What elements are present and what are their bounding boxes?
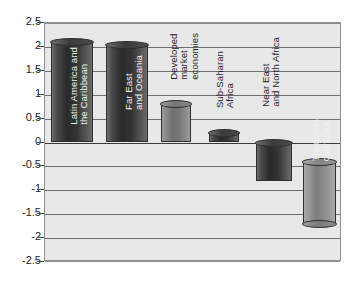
gridline--0_5 xyxy=(45,166,340,167)
series-label-transition-countries: Transition countries xyxy=(311,119,332,161)
y-tick-mark xyxy=(37,118,44,119)
bar-top-cap xyxy=(105,41,149,49)
bar-top-cap xyxy=(208,129,240,137)
y-tick-mark xyxy=(37,165,44,166)
y-tick-mark xyxy=(37,22,44,23)
y-tick-mark xyxy=(37,261,44,262)
y-tick-mark xyxy=(37,237,44,238)
y-tick-mark xyxy=(37,142,44,143)
series-label-latin-america-and-the-caribbean: Latin America and the Caribbean xyxy=(69,47,90,125)
series-label-far-east-and-oceania: Far East and Oceania xyxy=(124,55,145,110)
y-tick-mark xyxy=(37,189,44,190)
y-tick-mark xyxy=(37,70,44,71)
bar-transition-countries xyxy=(303,162,336,224)
series-label-near-east-and-north-africa: Near East and North Africa xyxy=(261,37,282,107)
gridline--1_5 xyxy=(45,214,340,215)
y-tick-mark xyxy=(37,46,44,47)
gridline--2 xyxy=(45,238,340,239)
bar-developed-market-economies xyxy=(161,104,191,142)
bar-sub-saharan-africa xyxy=(209,133,239,143)
plot-area: Latin America and the CaribbeanFar East … xyxy=(44,22,341,261)
gridline--2_5 xyxy=(45,261,340,262)
gridline-0 xyxy=(45,143,340,144)
bar-body xyxy=(161,104,191,142)
bar-bottom-cap xyxy=(302,220,337,228)
gridline--1 xyxy=(45,190,340,191)
bar-near-east-and-north-africa xyxy=(256,143,292,181)
bar-top-cap xyxy=(255,139,293,147)
y-tick-mark xyxy=(37,94,44,95)
bar-body xyxy=(303,162,336,224)
bar-body xyxy=(256,143,292,181)
series-label-sub-saharan-africa: Sub-Saharan Africa xyxy=(215,51,236,108)
gridline-2_5 xyxy=(45,23,340,24)
y-tick-mark xyxy=(37,213,44,214)
bar-chart: 2.521.510.50-0.5-1-1.5-2-2.5 Latin Ameri… xyxy=(0,0,359,305)
series-label-developed-market-economies: Developed market economies xyxy=(169,33,200,80)
